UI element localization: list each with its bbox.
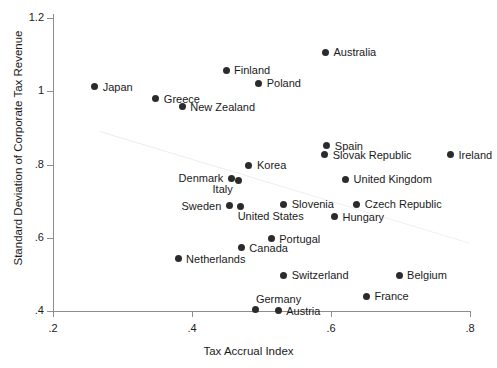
- data-point[interactable]: [342, 176, 349, 183]
- data-point-label: France: [374, 291, 408, 302]
- x-tick-mark: [470, 311, 471, 317]
- y-tick-mark: [47, 165, 53, 166]
- fitted-trend-line: [100, 131, 470, 244]
- data-point[interactable]: [323, 142, 330, 149]
- data-point[interactable]: [255, 80, 262, 87]
- data-point-label: United States: [238, 211, 304, 222]
- data-point-label: Switzerland: [292, 270, 349, 281]
- data-point[interactable]: [238, 244, 245, 251]
- x-tick-mark: [53, 311, 54, 317]
- y-tick-mark: [47, 91, 53, 92]
- data-point[interactable]: [152, 95, 159, 102]
- data-point[interactable]: [353, 201, 360, 208]
- x-tick-label: .2: [33, 322, 73, 334]
- y-axis-title: Standard Deviation of Corporate Tax Reve…: [12, 8, 24, 288]
- x-tick-mark: [192, 311, 193, 317]
- data-point[interactable]: [275, 307, 282, 314]
- scatter-plot: .4.6.811.2 .2.4.6.8 AustraliaFinlandPola…: [0, 0, 497, 368]
- data-point[interactable]: [179, 103, 186, 110]
- data-point-label: Japan: [103, 82, 133, 93]
- data-point[interactable]: [447, 151, 454, 158]
- data-point-label: Poland: [267, 78, 301, 89]
- data-point-label: Netherlands: [186, 254, 245, 265]
- data-point-label: Australia: [333, 47, 376, 58]
- data-point[interactable]: [223, 67, 230, 74]
- data-point-label: Sweden: [182, 201, 222, 212]
- data-point-label: Czech Republic: [365, 199, 442, 210]
- y-tick-label: .4: [20, 304, 44, 316]
- y-tick-mark: [47, 238, 53, 239]
- data-point[interactable]: [228, 175, 235, 182]
- data-point-label: Slovenia: [292, 199, 334, 210]
- y-tick-mark: [47, 18, 53, 19]
- data-point-label: Canada: [249, 243, 288, 254]
- data-point[interactable]: [226, 202, 233, 209]
- data-point-label: Belgium: [407, 270, 447, 281]
- data-point-label: United Kingdom: [354, 174, 432, 185]
- data-point-label: New Zealand: [190, 102, 255, 113]
- data-point[interactable]: [91, 83, 98, 90]
- data-point-label: Finland: [234, 65, 270, 76]
- data-point[interactable]: [331, 213, 338, 220]
- x-axis-title: Tax Accrual Index: [0, 345, 497, 357]
- x-tick-label: .4: [172, 322, 212, 334]
- data-point-label: Ireland: [459, 150, 493, 161]
- data-point-label: Germany: [256, 294, 301, 305]
- data-point[interactable]: [396, 272, 403, 279]
- data-point[interactable]: [321, 151, 328, 158]
- x-tick-label: .8: [450, 322, 490, 334]
- data-point-label: Korea: [257, 160, 286, 171]
- data-point[interactable]: [322, 49, 329, 56]
- data-point[interactable]: [280, 272, 287, 279]
- x-tick-label: .6: [311, 322, 351, 334]
- data-point[interactable]: [280, 201, 287, 208]
- data-point-label: Italy: [213, 184, 233, 195]
- data-point[interactable]: [245, 162, 252, 169]
- y-axis-line: [53, 14, 54, 311]
- data-point[interactable]: [175, 255, 182, 262]
- data-point[interactable]: [235, 177, 242, 184]
- data-point-label: Slovak Republic: [333, 150, 412, 161]
- data-point-label: Hungary: [342, 212, 384, 223]
- data-point[interactable]: [363, 293, 370, 300]
- data-point-label: Austria: [286, 306, 320, 317]
- x-axis-line: [53, 311, 470, 312]
- x-tick-mark: [331, 311, 332, 317]
